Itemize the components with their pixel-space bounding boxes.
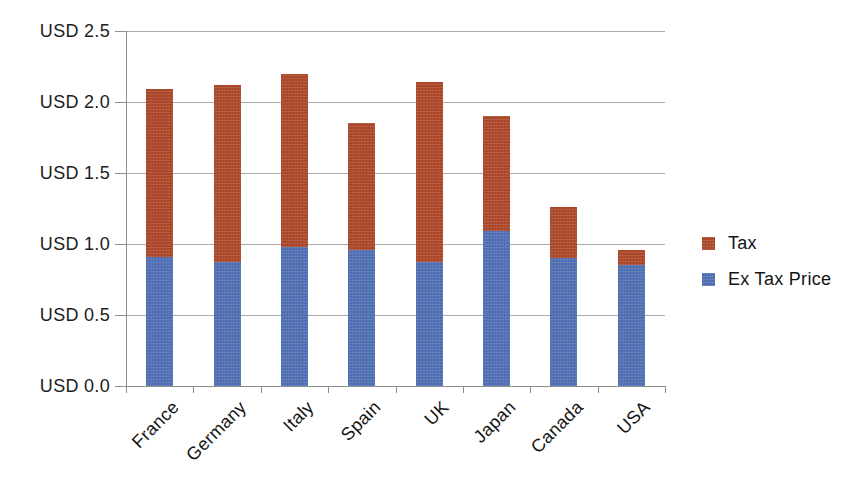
- y-axis-tick-label: USD 2.0: [10, 91, 110, 113]
- legend-label-tax: Tax: [728, 233, 757, 253]
- bar-Italy-ex-tax-price-segment: [281, 247, 308, 386]
- legend-item-tax: Tax: [702, 233, 831, 253]
- x-axis-tick-mark: [193, 387, 194, 393]
- y-axis-tick-mark: [115, 315, 126, 316]
- y-axis-tick-label: USD 0.5: [10, 304, 110, 326]
- bar-Italy-tax-segment: [281, 74, 308, 247]
- legend-label-ex-tax-price: Ex Tax Price: [728, 269, 831, 289]
- y-axis-tick-label: USD 1.0: [10, 233, 110, 255]
- bar-France-ex-tax-price-segment: [146, 257, 173, 386]
- y-axis-tick-mark: [115, 173, 126, 174]
- bar-USA-ex-tax-price-segment: [618, 265, 645, 386]
- y-axis-tick-mark: [115, 31, 126, 32]
- x-axis-tick-mark: [665, 387, 666, 393]
- gridline-2: [126, 102, 665, 103]
- y-axis-tick-mark: [115, 386, 126, 387]
- bar-USA-tax-segment: [618, 250, 645, 266]
- legend: Tax Ex Tax Price: [702, 233, 831, 305]
- bar-UK-ex-tax-price-segment: [416, 262, 443, 386]
- x-axis-label-Italy: Italy: [279, 397, 318, 436]
- legend-swatch-tax-icon: [702, 237, 715, 250]
- bar-Japan-ex-tax-price-segment: [483, 231, 510, 386]
- x-axis-tick-mark: [126, 387, 127, 393]
- bar-Germany-ex-tax-price-segment: [214, 262, 241, 386]
- x-axis-label-Japan: Japan: [470, 397, 520, 447]
- x-axis-tick-mark: [530, 387, 531, 393]
- legend-swatch-ex-tax-price-icon: [702, 273, 715, 286]
- bar-Japan-tax-segment: [483, 116, 510, 231]
- chart-page: USD 0.0USD 0.5USD 1.0USD 1.5USD 2.0USD 2…: [0, 0, 867, 493]
- gridline-1: [126, 244, 665, 245]
- bar-Germany-tax-segment: [214, 85, 241, 263]
- bar-UK-tax-segment: [416, 82, 443, 262]
- bar-Canada-ex-tax-price-segment: [550, 258, 577, 386]
- x-axis-tick-mark: [328, 387, 329, 393]
- x-axis-label-Spain: Spain: [337, 397, 385, 445]
- x-axis-tick-mark: [598, 387, 599, 393]
- bar-Canada-tax-segment: [550, 207, 577, 258]
- legend-item-ex-tax-price: Ex Tax Price: [702, 269, 831, 289]
- gridline-0.5: [126, 315, 665, 316]
- bar-France-tax-segment: [146, 89, 173, 257]
- x-axis-label-Germany: Germany: [182, 397, 250, 465]
- x-axis-label-UK: UK: [420, 397, 452, 429]
- y-axis-tick-mark: [115, 102, 126, 103]
- x-axis-label-USA: USA: [613, 397, 654, 438]
- x-axis-label-Canada: Canada: [527, 397, 587, 457]
- x-axis-tick-mark: [261, 387, 262, 393]
- x-axis-tick-mark: [463, 387, 464, 393]
- y-axis-tick-label: USD 2.5: [10, 20, 110, 42]
- x-axis-tick-mark: [396, 387, 397, 393]
- y-axis-tick-label: USD 1.5: [10, 162, 110, 184]
- gridline-2.5: [126, 31, 665, 32]
- y-axis-line: [126, 31, 127, 386]
- bar-Spain-tax-segment: [348, 123, 375, 249]
- bar-Spain-ex-tax-price-segment: [348, 250, 375, 386]
- y-axis-tick-label: USD 0.0: [10, 375, 110, 397]
- gridline-1.5: [126, 173, 665, 174]
- y-axis-tick-mark: [115, 244, 126, 245]
- x-axis-label-France: France: [128, 397, 183, 452]
